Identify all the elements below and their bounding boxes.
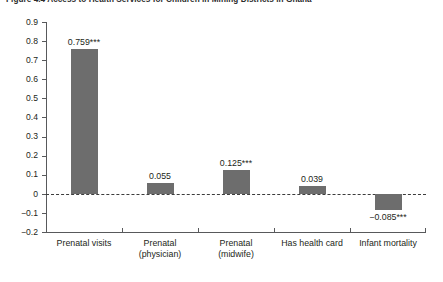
y-axis-tick	[42, 79, 46, 80]
bar[interactable]	[223, 170, 250, 194]
bar[interactable]	[375, 194, 402, 210]
y-axis-tick-label: 0.3	[4, 132, 38, 141]
y-axis-tick-label: 0.6	[4, 75, 38, 84]
y-axis-tick	[42, 98, 46, 99]
y-axis-line	[46, 22, 47, 232]
y-axis-tick-label: −0.2	[4, 228, 38, 237]
bar-value-label: 0.039	[267, 175, 357, 184]
x-axis-line	[46, 232, 426, 233]
y-axis-tick	[42, 137, 46, 138]
y-axis-tick	[42, 60, 46, 61]
bar-value-label: −0.085***	[343, 213, 433, 222]
x-axis-tick-start	[46, 228, 47, 233]
x-axis-separator-tick	[198, 228, 199, 233]
y-axis-tick-label: 0.1	[4, 170, 38, 179]
y-axis-tick-label: 0.5	[4, 94, 38, 103]
x-axis-separator-tick	[274, 228, 275, 233]
y-axis-tick	[42, 213, 46, 214]
y-axis-tick	[42, 117, 46, 118]
y-axis-tick	[42, 22, 46, 23]
x-axis-separator-tick	[350, 228, 351, 233]
bar[interactable]	[147, 183, 174, 194]
y-axis-tick-label: 0	[4, 190, 38, 199]
category-label-line: Infant mortality	[338, 238, 438, 249]
y-axis-tick	[42, 156, 46, 157]
x-axis-tick-end	[425, 228, 426, 233]
x-axis-separator-tick	[122, 228, 123, 233]
x-axis-category-label: Infant mortality	[338, 238, 438, 249]
y-axis-tick-label: −0.1	[4, 209, 38, 218]
bar[interactable]	[299, 186, 326, 193]
y-axis-tick-label: 0.2	[4, 151, 38, 160]
category-label-line: (midwife)	[186, 249, 286, 260]
y-axis-tick-label: 0.8	[4, 37, 38, 46]
y-axis-tick	[42, 175, 46, 176]
bar-chart: 0.90.80.70.60.50.40.30.20.10−0.1−0.2 0.7…	[0, 0, 443, 282]
y-axis-tick-label: 0.9	[4, 18, 38, 27]
bar-value-label: 0.055	[115, 172, 205, 181]
y-axis-tick-label: 0.7	[4, 56, 38, 65]
y-axis-tick-label: 0.4	[4, 113, 38, 122]
bar[interactable]	[71, 49, 98, 194]
bar-value-label: 0.125***	[191, 159, 281, 168]
bar-value-label: 0.759***	[39, 38, 129, 47]
zero-reference-line	[46, 194, 426, 195]
